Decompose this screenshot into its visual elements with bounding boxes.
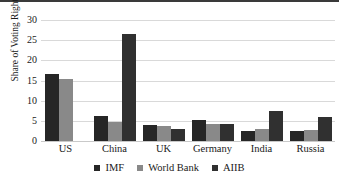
legend-label: AIIB [223,162,245,173]
x-label-india: India [237,143,286,154]
y-tick-label-0: 0 [32,136,37,146]
legend-swatch-icon-aiib [212,165,218,171]
x-label-uk: UK [139,143,188,154]
legend-item-aiib: AIIB [212,162,245,173]
bar-china-aiib [122,34,136,141]
bar-germany-imf [192,120,206,141]
bar-russia-imf [290,131,304,141]
x-label-us: US [41,143,90,154]
legend-label: World Bank [148,162,199,173]
bar-russia-world-bank [304,130,318,141]
legend-swatch-icon-world-bank [137,165,143,171]
gridline-0 [41,141,335,142]
bar-india-world-bank [255,129,269,142]
bar-us-imf [45,74,59,141]
x-label-china: China [90,143,139,154]
y-tick-label-5: 5 [32,116,37,126]
x-label-russia: Russia [286,143,335,154]
bar-group-china [90,20,139,141]
bar-uk-imf [143,125,157,141]
bar-china-imf [94,116,108,141]
bar-group-russia [286,20,335,141]
y-tick-label-10: 10 [27,96,37,106]
bar-us-world-bank [59,79,73,141]
x-axis-category-labels: USChinaUKGermanyIndiaRussia [41,143,335,154]
bar-group-germany [188,20,237,141]
y-tick-label-20: 20 [27,55,37,65]
bar-uk-aiib [171,129,185,141]
bar-groups [41,20,335,141]
y-tick-label-15: 15 [27,76,37,86]
bar-india-imf [241,131,255,141]
bar-group-us [41,20,90,141]
bar-group-uk [139,20,188,141]
bar-germany-aiib [220,124,234,141]
legend-item-world-bank: World Bank [137,162,199,173]
bar-group-india [237,20,286,141]
chart-legend: IMFWorld BankAIIB [0,162,339,173]
y-tick-label-25: 25 [27,35,37,45]
voting-rights-bar-chart: Share of Voting Rights (%) 302520151050 … [0,0,339,182]
legend-label: IMF [105,162,124,173]
x-label-germany: Germany [188,143,237,154]
top-divider-rule [0,0,339,2]
bar-uk-world-bank [157,126,171,141]
legend-item-imf: IMF [94,162,124,173]
bar-india-aiib [269,111,283,141]
plot-area [41,20,335,141]
bar-germany-world-bank [206,124,220,141]
bar-china-world-bank [108,122,122,141]
legend-swatch-icon-imf [94,165,100,171]
y-axis-tick-labels: 302520151050 [19,0,37,182]
bar-russia-aiib [318,117,332,141]
y-tick-label-30: 30 [27,15,37,25]
